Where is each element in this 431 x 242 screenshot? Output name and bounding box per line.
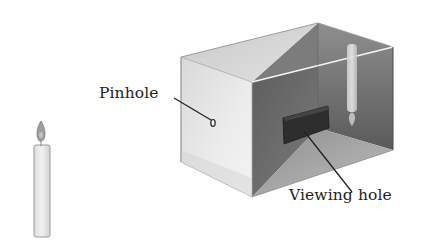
pinhole-camera-diagram: Pinhole Viewing hole — [0, 0, 431, 242]
diagram-canvas — [0, 0, 431, 242]
inverted-candle-body — [347, 44, 357, 112]
pinhole-icon — [211, 120, 215, 127]
candle-body — [34, 145, 50, 237]
viewing-hole-label: Viewing hole — [289, 188, 392, 204]
flame-core — [39, 132, 43, 138]
flame-icon — [37, 121, 45, 141]
pinhole-label: Pinhole — [99, 86, 159, 102]
pinhole-box — [181, 23, 393, 197]
candle — [34, 121, 50, 237]
